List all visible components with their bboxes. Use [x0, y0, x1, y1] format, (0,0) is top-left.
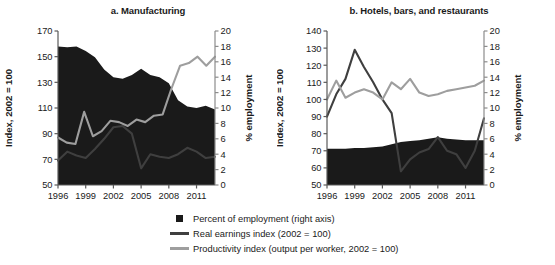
y2-tick-label: 18	[221, 42, 231, 52]
legend-swatch-line-icon	[168, 232, 190, 235]
y2-tick-label: 16	[221, 57, 231, 67]
y2-tick-label: 14	[490, 73, 500, 83]
y2-tick-label: 6	[490, 134, 495, 144]
figure-root: a. Manufacturing 50709011013015017002468…	[0, 0, 555, 265]
legend-swatch-square-icon	[168, 215, 190, 222]
y-tick-label: 70	[311, 146, 321, 156]
y-tick-label: 50	[311, 180, 321, 190]
x-tick-label: 2002	[372, 191, 393, 201]
chart-panel-hotels-bars-restaurants: b. Hotels, bars, and restaurants 5060708…	[277, 0, 555, 205]
legend-item-productivity: Productivity index (output per worker, 2…	[168, 241, 498, 256]
x-tick-label: 2008	[427, 191, 448, 201]
legend-label: Real earnings index (2002 = 100)	[190, 229, 331, 239]
y2-tick-label: 6	[221, 134, 226, 144]
y2-tick-label: 14	[221, 73, 231, 83]
y2-tick-label: 10	[490, 103, 500, 113]
x-tick-label: 2005	[131, 191, 152, 201]
hotels-chart-svg: 5060708090100110120130140024681012141618…	[277, 0, 555, 205]
y-tick-label: 110	[307, 78, 322, 88]
y2-tick-label: 2	[221, 165, 226, 175]
y-tick-label: 120	[306, 61, 322, 71]
y-tick-label: 60	[311, 163, 321, 173]
y2-tick-label: 2	[490, 165, 495, 175]
legend-swatch-line-icon	[168, 247, 190, 249]
y2-tick-label: 18	[490, 42, 500, 52]
y2-tick-label: 4	[221, 150, 226, 160]
legend-label: Productivity index (output per worker, 2…	[190, 244, 398, 254]
x-tick-label: 1999	[344, 191, 365, 201]
y2-tick-label: 16	[490, 57, 500, 67]
y2-tick-label: 20	[490, 26, 500, 36]
x-tick-label: 2005	[400, 191, 421, 201]
legend-item-percent-employment: Percent of employment (right axis)	[168, 211, 498, 226]
y-tick-label: 170	[37, 26, 53, 36]
x-tick-label: 2008	[158, 191, 179, 201]
x-tick-label: 2011	[187, 191, 207, 201]
y2-tick-label: 0	[490, 180, 495, 190]
x-tick-label: 2011	[456, 191, 476, 201]
y-tick-label: 50	[42, 180, 52, 190]
y2-tick-label: 0	[221, 180, 226, 190]
y2-tick-label: 12	[221, 88, 231, 98]
y-tick-label: 110	[38, 103, 53, 113]
x-tick-label: 1996	[48, 191, 69, 201]
y-tick-label: 90	[311, 112, 321, 122]
manufacturing-chart-svg: 5070901101301501700246810121416182019961…	[0, 0, 278, 205]
legend-item-real-earnings: Real earnings index (2002 = 100)	[168, 226, 498, 241]
y2-axis-title: % employment	[512, 74, 523, 142]
y-tick-label: 80	[311, 129, 321, 139]
area-percent-employment	[58, 46, 215, 185]
legend-label: Percent of employment (right axis)	[190, 214, 335, 224]
y-tick-label: 70	[42, 155, 52, 165]
y-tick-label: 100	[306, 95, 322, 105]
y-tick-label: 150	[37, 52, 53, 62]
y-tick-label: 130	[306, 44, 322, 54]
y2-axis-title: % employment	[243, 74, 254, 142]
y2-tick-label: 10	[221, 103, 231, 113]
y-tick-label: 90	[42, 129, 52, 139]
y-tick-label: 130	[37, 78, 53, 88]
x-tick-label: 1996	[317, 191, 338, 201]
x-tick-label: 1999	[75, 191, 96, 201]
y-axis-title: Index, 2002 = 100	[277, 69, 285, 147]
y2-tick-label: 8	[490, 119, 495, 129]
y2-tick-label: 8	[221, 119, 226, 129]
y2-tick-label: 4	[490, 150, 495, 160]
x-tick-label: 2002	[103, 191, 124, 201]
y2-tick-label: 20	[221, 26, 231, 36]
y2-tick-label: 12	[490, 88, 500, 98]
line-series-1	[327, 79, 484, 100]
chart-panel-manufacturing: a. Manufacturing 50709011013015017002468…	[0, 0, 278, 205]
y-axis-title: Index, 2002 = 100	[3, 69, 14, 147]
figure-legend: Percent of employment (right axis) Real …	[168, 211, 498, 256]
y-tick-label: 140	[306, 26, 322, 36]
